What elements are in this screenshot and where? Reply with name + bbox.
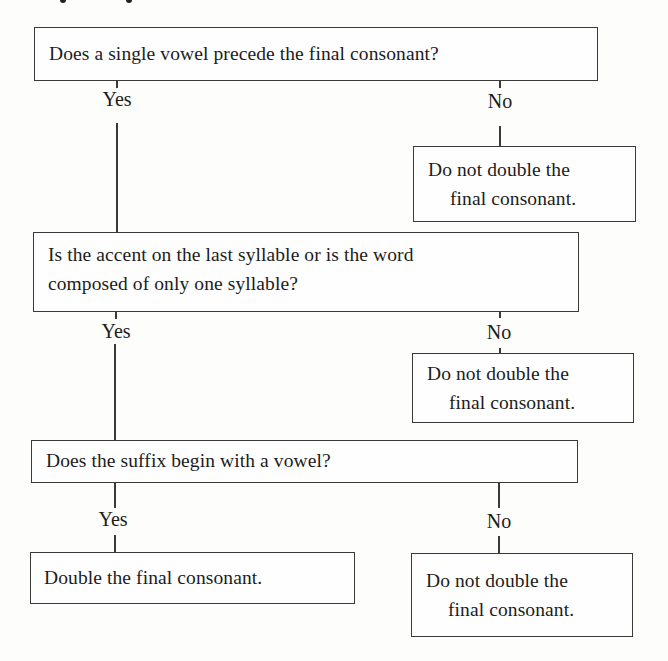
connector-q3-yes-top (114, 482, 116, 508)
yes-label-1: Yes (102, 88, 131, 111)
yes-label-2: Yes (101, 320, 130, 343)
descender-fragment (60, 0, 66, 3)
connector-q1-yes-top (116, 80, 118, 88)
no-label-3: No (487, 510, 511, 533)
result-2-line-1: Do not double the (427, 359, 633, 388)
descender-fragment (126, 0, 132, 3)
result-3-line-1: Do not double the (426, 566, 632, 595)
connector-q2-yes-bottom (114, 344, 116, 440)
question-box-2: Is the accent on the last syllable or is… (33, 232, 579, 312)
connector-q2-yes-top (115, 311, 117, 319)
result-box-no-double-3: Do not double the final consonant. (411, 553, 633, 637)
connector-q1-yes-bottom (116, 123, 118, 232)
question-2-line-2: composed of only one syllable? (48, 269, 578, 298)
question-1-text: Does a single vowel precede the final co… (49, 39, 597, 68)
result-box-no-double-2: Do not double the final consonant. (412, 353, 634, 423)
result-box-double: Double the final consonant. (30, 552, 355, 604)
question-box-1: Does a single vowel precede the final co… (34, 27, 598, 81)
connector-q3-no-top (498, 482, 500, 508)
cropped-heading-fragment (60, 0, 260, 4)
connector-q1-no-top (499, 80, 501, 88)
question-2-line-1: Is the accent on the last syllable or is… (48, 240, 578, 269)
connector-q2-no-top (499, 311, 501, 318)
no-label-2: No (487, 321, 511, 344)
connector-q3-yes-bottom (114, 535, 116, 552)
result-box-no-double-1: Do not double the final consonant. (413, 146, 636, 222)
yes-label-3: Yes (98, 508, 127, 531)
result-double-text: Double the final consonant. (44, 563, 354, 592)
connector-q1-no-bottom (499, 126, 501, 146)
result-1-line-1: Do not double the (428, 155, 635, 184)
question-box-3: Does the suffix begin with a vowel? (31, 440, 578, 483)
result-2-line-2: final consonant. (427, 388, 633, 417)
question-3-text: Does the suffix begin with a vowel? (46, 446, 577, 475)
connector-q3-no-bottom (498, 536, 500, 553)
result-1-line-2: final consonant. (428, 184, 635, 213)
result-3-line-2: final consonant. (426, 595, 632, 624)
no-label-1: No (488, 90, 512, 113)
